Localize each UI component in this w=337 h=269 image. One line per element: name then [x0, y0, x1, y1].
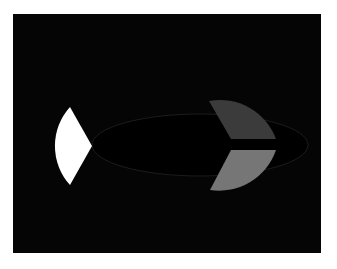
white-wedge: [55, 107, 92, 185]
ellipse-outline: [92, 114, 308, 176]
figure-svg: [0, 0, 337, 269]
